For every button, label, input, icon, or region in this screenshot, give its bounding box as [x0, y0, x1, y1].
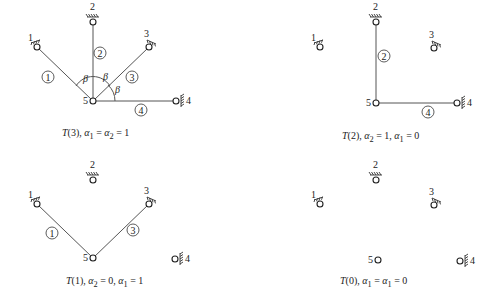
node-3: 3 — [144, 185, 156, 207]
node-label: 3 — [429, 29, 434, 40]
node-3: 3 — [144, 28, 156, 50]
member-number-3: 3 — [127, 224, 139, 236]
support-icon — [180, 252, 183, 265]
node-2: 2 — [86, 1, 99, 25]
member-3 — [93, 204, 149, 258]
support-icon — [86, 172, 99, 175]
caption-t0: T(0), α1 = α1 = 0 — [340, 275, 407, 289]
node-2: 2 — [86, 159, 99, 183]
support-icon — [465, 254, 468, 267]
member-number-1: 1 — [46, 227, 58, 239]
svg-text:2: 2 — [382, 51, 387, 62]
panel-t3: βββ123412345 — [28, 1, 191, 116]
caption-t2: T(2), α2 = 1, α1 = 0 — [342, 130, 419, 144]
node-1: 1 — [311, 189, 323, 207]
svg-text:1: 1 — [50, 228, 55, 239]
support-icon — [369, 14, 382, 17]
panel-t1: 1312345 — [28, 159, 190, 265]
caption-t3: T(3), α1 = α2 = 1 — [62, 127, 129, 141]
svg-text:4: 4 — [426, 107, 431, 118]
node-1: 1 — [311, 32, 323, 50]
node-label: 5 — [366, 97, 371, 108]
member-number-1: 1 — [42, 71, 54, 83]
svg-text:2: 2 — [98, 48, 103, 59]
node-label: 4 — [186, 95, 191, 106]
node-label: 1 — [311, 32, 316, 43]
caption-t1: T(1), α2 = 0, α1 = 1 — [66, 275, 143, 289]
panel-t2: 2412345 — [311, 1, 472, 118]
svg-text:3: 3 — [131, 225, 136, 236]
angle-beta-label: β — [82, 73, 88, 84]
member-number-4: 4 — [135, 104, 147, 116]
support-icon — [462, 96, 465, 109]
node-label: 5 — [83, 95, 88, 106]
node-4: 4 — [172, 252, 190, 265]
node-label: 2 — [90, 159, 95, 170]
node-label: 2 — [373, 1, 378, 12]
node-label: 4 — [470, 255, 475, 266]
node-label: 4 — [467, 97, 472, 108]
node-1: 1 — [28, 189, 40, 207]
node-2: 2 — [369, 1, 382, 25]
support-icon — [181, 94, 184, 107]
node-4: 4 — [457, 254, 475, 267]
panel-t0: 12345 — [311, 159, 475, 267]
svg-text:3: 3 — [130, 72, 135, 83]
node-5: 5 — [366, 97, 379, 108]
member-1 — [37, 204, 93, 258]
node-4: 4 — [173, 94, 191, 107]
angle-arc — [108, 85, 115, 101]
node-5: 5 — [83, 252, 96, 263]
node-3: 3 — [429, 186, 441, 208]
angle-beta-label: β — [102, 71, 108, 82]
svg-text:1: 1 — [46, 72, 51, 83]
node-label: 1 — [311, 189, 316, 200]
node-label: 2 — [373, 159, 378, 170]
member-number-2: 2 — [94, 47, 106, 59]
member-number-2: 2 — [378, 50, 390, 62]
node-label: 1 — [28, 32, 33, 43]
support-icon — [369, 172, 382, 175]
node-label: 2 — [90, 1, 95, 12]
node-label: 3 — [144, 185, 149, 196]
node-2: 2 — [369, 159, 382, 183]
node-label: 3 — [144, 28, 149, 39]
node-1: 1 — [28, 32, 40, 50]
svg-text:4: 4 — [139, 105, 144, 116]
member-number-4: 4 — [422, 106, 434, 118]
node-label: 4 — [185, 253, 190, 264]
support-icon — [86, 14, 99, 17]
node-label: 1 — [28, 189, 33, 200]
diagram-canvas: βββ1234123452412345131234512345 — [0, 0, 501, 293]
node-5: 5 — [368, 254, 381, 265]
member-number-3: 3 — [126, 71, 138, 83]
node-3: 3 — [429, 29, 441, 51]
node-5: 5 — [83, 95, 96, 106]
node-label: 3 — [429, 186, 434, 197]
angle-beta-label: β — [114, 84, 120, 95]
node-label: 5 — [83, 252, 88, 263]
node-4: 4 — [454, 96, 472, 109]
node-label: 5 — [368, 254, 373, 265]
